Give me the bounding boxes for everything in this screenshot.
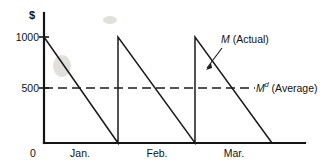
annotation-actual-text: (Actual) [230,33,269,45]
series-actual-line [44,37,272,143]
x-tick-label-mar: Mar. [212,148,256,159]
origin-label: 0 [27,148,39,159]
annotation-actual: M (Actual) [221,34,269,45]
annotation-actual-symbol: M [221,33,230,45]
annotation-average: Md (Average) [256,81,318,93]
annotation-average-symbol: M [256,82,265,94]
scan-smudge [103,16,117,24]
x-tick-label-jan: Jan. [58,148,102,159]
y-axis-unit-label: $ [29,10,35,21]
annotation-average-text: (Average) [269,82,318,94]
scan-smudge [53,55,71,77]
y-tick-label-1000: 1000 [7,32,39,43]
actual-annotation-arrowhead [206,63,212,70]
chart-figure: $ 1000 500 0 Jan. Feb. Mar. M (Actual) M… [0,0,330,167]
x-tick-label-feb: Feb. [135,148,179,159]
y-tick-label-500: 500 [7,83,39,94]
